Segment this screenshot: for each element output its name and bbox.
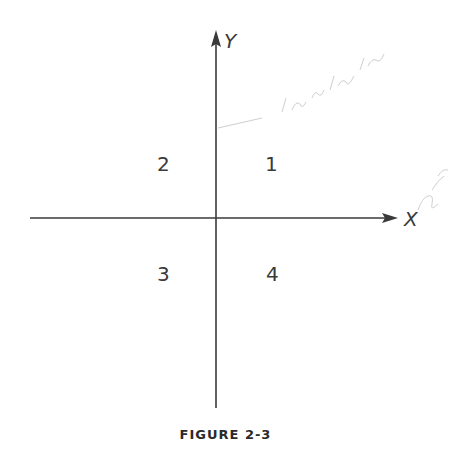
pencil-annotation [218, 54, 448, 210]
coordinate-plane [0, 0, 451, 468]
figure-caption: FIGURE 2-3 [0, 427, 451, 442]
quadrant-1-label: 1 [265, 152, 278, 176]
quadrant-3-label: 3 [157, 262, 170, 286]
y-axis-label: Y [224, 29, 236, 53]
x-axis-label: X [404, 207, 418, 231]
quadrant-2-label: 2 [157, 152, 170, 176]
quadrant-4-label: 4 [266, 262, 279, 286]
